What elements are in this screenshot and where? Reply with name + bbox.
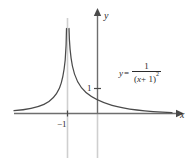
x-tick-label-minus-one: −1	[57, 120, 67, 129]
equation-numerator: 1	[140, 62, 153, 71]
plot-canvas	[0, 0, 192, 165]
equation-exponent: 2	[156, 71, 159, 77]
equation-fraction: 1 (x+ 1)2	[132, 62, 161, 85]
x-axis-label: x	[180, 110, 184, 120]
y-tick-label-one: 1	[87, 84, 92, 93]
equation-equals-sign: =	[124, 68, 129, 78]
equation-annotation: y = 1 (x+ 1)2	[119, 62, 161, 85]
equation-denominator: (x+ 1)2	[132, 72, 161, 84]
function-graph-figure: y x −1 1 y = 1 (x+ 1)2	[0, 0, 192, 165]
equation-denominator-plus-one: + 1	[141, 74, 153, 84]
y-axis-arrow-icon	[94, 8, 101, 16]
equation-lhs: y	[119, 68, 123, 78]
curve-left-branch	[14, 29, 67, 111]
y-axis-label: y	[104, 11, 108, 21]
